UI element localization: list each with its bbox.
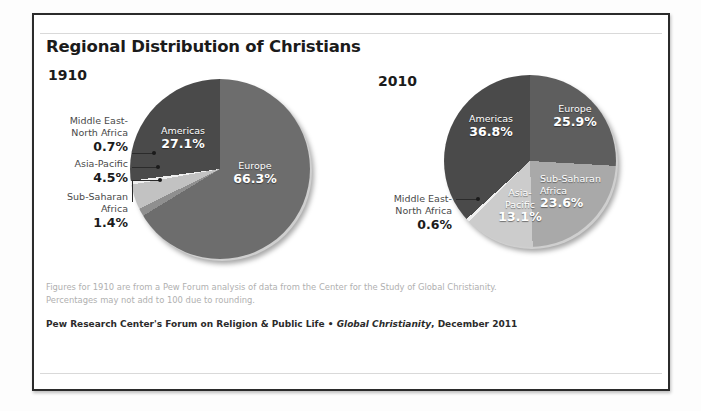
pie-1910-mena-name-line2: North Africa	[30, 127, 128, 139]
pie-1910-leader-asia	[132, 167, 158, 168]
pie-1910-leader-ssa-vertical	[132, 180, 133, 202]
pie-2010-mena-name-line1: Middle East-	[352, 193, 452, 205]
pie-chart-2010	[444, 75, 620, 251]
pie-2010-europe-name: Europe	[542, 103, 608, 115]
source-prefix: Pew Research Center's Forum on Religion …	[46, 319, 337, 329]
source-line: Pew Research Center's Forum on Religion …	[46, 318, 646, 331]
pie-1910-europe-pct: 66.3%	[219, 172, 291, 186]
pie-2010-americas-pct: 36.8%	[450, 125, 532, 139]
pie-2010-asia-pct: 13.1%	[492, 210, 548, 224]
pie-2010-leader-dot-mena	[476, 197, 480, 201]
pie-2010-callout-mena: Middle East- North Africa 0.6%	[352, 193, 452, 232]
pie-2010-americas-name: Americas	[450, 113, 532, 125]
pie-2010-label-asia: Asia- Pacific 13.1%	[492, 187, 548, 224]
pie-1910-leader-dot-ssa	[158, 178, 162, 182]
pie-1910-label-europe: Europe 66.3%	[219, 160, 291, 186]
pie-2010-ssa-name-line1: Sub-Saharan	[540, 173, 616, 185]
year-label-2010: 2010	[378, 73, 417, 89]
pie-1910-leader-mena	[132, 153, 154, 154]
pie-1910-leader-dot-asia	[156, 165, 160, 169]
source-suffix: , December 2011	[431, 319, 517, 329]
pie-1910-mena-name-line1: Middle East-	[30, 115, 128, 127]
pie-2010-label-americas: Americas 36.8%	[450, 113, 532, 139]
pie-2010-leader-mena	[456, 199, 478, 200]
footnote-line-2: Percentages may not add to 100 due to ro…	[46, 294, 646, 307]
pie-2010-asia-name-line1: Asia-	[492, 187, 548, 199]
bottom-divider-rule	[40, 373, 662, 374]
top-divider-rule	[40, 33, 662, 34]
pie-1910-label-americas: Americas 27.1%	[144, 125, 222, 151]
pie-1910-ssa-pct: 1.4%	[30, 215, 128, 230]
year-label-1910: 1910	[48, 67, 87, 83]
pie-1910-mena-pct: 0.7%	[30, 139, 128, 154]
pie-1910-callout-mena: Middle East- North Africa 0.7%	[30, 115, 128, 154]
footnote-line-1: Figures for 1910 are from a Pew Forum an…	[46, 281, 646, 294]
pie-1910-asia-name: Asia-Pacific	[30, 158, 128, 170]
pie-1910-callout-ssa: Sub-Saharan Africa 1.4%	[30, 191, 128, 230]
pie-1910-ssa-name-line1: Sub-Saharan	[30, 191, 128, 203]
pie-1910-europe-name: Europe	[219, 160, 291, 172]
source-publication: Global Christianity	[337, 319, 431, 329]
figure-frame: Regional Distribution of Christians 1910…	[32, 13, 670, 391]
pie-2010-mena-pct: 0.6%	[352, 217, 452, 232]
pie-1910-asia-pct: 4.5%	[30, 170, 128, 185]
chart-figure: Regional Distribution of Christians 1910…	[0, 0, 701, 411]
pie-2010-label-ssa: Sub-Saharan Africa 23.6%	[540, 173, 616, 210]
footnote: Figures for 1910 are from a Pew Forum an…	[46, 281, 646, 307]
pie-1910-callout-asia: Asia-Pacific 4.5%	[30, 158, 128, 185]
pie-2010-europe-pct: 25.9%	[542, 115, 608, 129]
pie-1910-leader-ssa-horizontal	[132, 180, 160, 181]
page-title: Regional Distribution of Christians	[46, 37, 361, 56]
pie-2010-label-europe: Europe 25.9%	[542, 103, 608, 129]
pie-1910-ssa-name-line2: Africa	[30, 203, 128, 215]
pie-2010-mena-name-line2: North Africa	[352, 205, 452, 217]
pie-2010-ssa-pct: 23.6%	[540, 196, 616, 210]
pie-1910-americas-name: Americas	[144, 125, 222, 137]
pie-1910-leader-dot-mena	[152, 151, 156, 155]
pie-1910-americas-pct: 27.1%	[144, 137, 222, 151]
